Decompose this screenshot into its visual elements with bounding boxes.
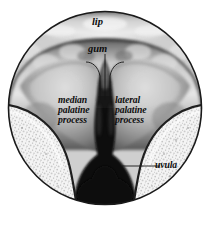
illustration-canvas	[0, 0, 210, 227]
label-gum: gum	[88, 44, 107, 55]
anatomical-figure: lip gum median palatine process lateral …	[0, 0, 210, 227]
label-uvula: uvula	[155, 160, 177, 170]
label-lip: lip	[92, 17, 103, 28]
label-median-palatine-process: median palatine process	[58, 95, 90, 125]
illustration-body	[0, 0, 210, 227]
label-lateral-palatine-process: lateral palatine process	[115, 95, 147, 125]
vignette-overlay	[0, 0, 210, 227]
